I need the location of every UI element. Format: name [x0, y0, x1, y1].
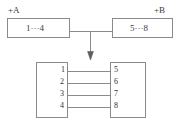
left-pin-4: 4	[60, 102, 64, 110]
right-pin-8: 8	[114, 102, 118, 110]
unit-b-body-label: 5···8	[130, 24, 148, 33]
right-pin-5: 5	[114, 66, 118, 74]
left-pin-1: 1	[61, 66, 65, 74]
left-pin-2: 2	[60, 78, 64, 86]
diagram-vector-layer	[0, 0, 179, 136]
right-pin-7: 7	[114, 90, 118, 98]
diagram-canvas: +A +B 1···4 5···8 1 2 3 4 5 6 7 8	[0, 0, 179, 136]
unit-a-tag: +A	[8, 6, 20, 15]
left-pin-3: 3	[60, 90, 64, 98]
right-pin-6: 6	[114, 78, 118, 86]
unit-a-body-label: 1···4	[26, 24, 44, 33]
unit-b-tag: +B	[154, 6, 165, 15]
callout-arrow-head	[88, 52, 94, 61]
